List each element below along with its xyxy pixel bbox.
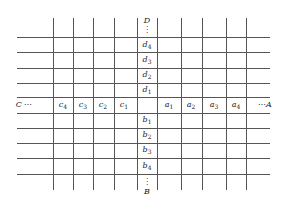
- label-b2: b2: [143, 131, 152, 140]
- label-A: ⋯A: [258, 101, 272, 109]
- label-sub: 2: [148, 73, 152, 80]
- label-d1: d1: [143, 86, 152, 95]
- label-sub: 2: [148, 133, 152, 140]
- label-d4: d4: [143, 41, 152, 50]
- label-letter: C: [16, 100, 22, 109]
- label-C: C ⋯: [16, 101, 33, 109]
- grid-diagram: D ⋮ d4 d3 d2 d1 C ⋯ c4 c3 c2 c1 a1 a2 a3…: [0, 0, 292, 211]
- label-b1: b1: [143, 116, 152, 125]
- dots-bottom: ⋮: [143, 178, 151, 186]
- label-d2: d2: [143, 71, 152, 80]
- label-sub: 1: [148, 88, 152, 95]
- label-sub: 2: [191, 103, 195, 110]
- label-c4: c4: [59, 101, 67, 110]
- label-sub: 3: [148, 58, 152, 65]
- label-B: B: [144, 188, 150, 196]
- label-sub: 2: [103, 103, 107, 110]
- label-sub: 1: [124, 103, 128, 110]
- label-c1: c1: [120, 101, 128, 110]
- dots-left: ⋯: [24, 100, 32, 109]
- label-sub: 1: [148, 118, 152, 125]
- label-d3: d3: [143, 56, 152, 65]
- label-sub: 4: [63, 103, 67, 110]
- label-sub: 3: [214, 103, 218, 110]
- label-a4: a4: [232, 101, 241, 110]
- label-sub: 3: [83, 103, 87, 110]
- dots-right: ⋯: [258, 100, 266, 109]
- dots-top: ⋮: [143, 26, 151, 34]
- label-letter: A: [266, 100, 272, 109]
- label-D: D: [144, 17, 150, 25]
- label-a1: a1: [165, 101, 174, 110]
- label-sub: 1: [169, 103, 173, 110]
- label-sub: 4: [148, 164, 152, 171]
- label-sub: 3: [148, 148, 152, 155]
- label-a2: a2: [187, 101, 196, 110]
- label-a3: a3: [210, 101, 219, 110]
- label-c3: c3: [79, 101, 87, 110]
- label-sub: 4: [148, 43, 152, 50]
- label-c2: c2: [99, 101, 107, 110]
- label-b3: b3: [143, 146, 152, 155]
- label-b4: b4: [143, 162, 152, 171]
- label-sub: 4: [236, 103, 240, 110]
